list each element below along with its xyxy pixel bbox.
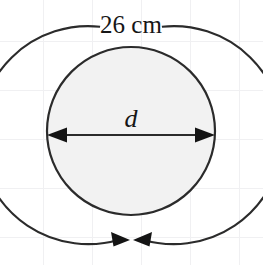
circle-diagram-figure: 26 cm d [0,0,263,265]
diameter-label: d [125,104,139,133]
circumference-arrow-left-icon [111,232,130,247]
diagram-canvas: 26 cm d [0,0,263,265]
circumference-arrow-right-icon [133,232,152,247]
circumference-label: 26 cm [100,11,162,38]
